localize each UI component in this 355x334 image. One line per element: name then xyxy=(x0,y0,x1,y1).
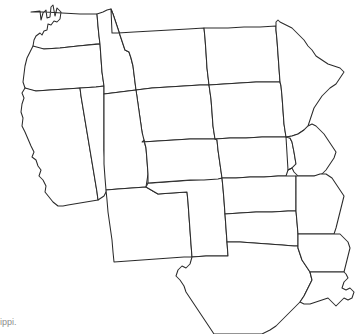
state-kansas[interactable] xyxy=(222,176,296,214)
state-oregon[interactable] xyxy=(23,44,104,91)
state-south-dakota[interactable] xyxy=(209,82,286,139)
us-states-outline-map xyxy=(0,0,355,334)
state-nebraska[interactable] xyxy=(215,137,296,178)
state-north-dakota[interactable] xyxy=(204,26,280,85)
map-canvas: ippi. xyxy=(0,0,355,334)
truncated-caption-text: ippi. xyxy=(0,317,17,328)
state-wyoming[interactable] xyxy=(136,85,215,142)
state-colorado[interactable] xyxy=(142,139,222,183)
state-oklahoma[interactable] xyxy=(225,211,298,246)
state-arkansas[interactable] xyxy=(298,234,350,272)
state-arizona[interactable] xyxy=(106,187,192,262)
